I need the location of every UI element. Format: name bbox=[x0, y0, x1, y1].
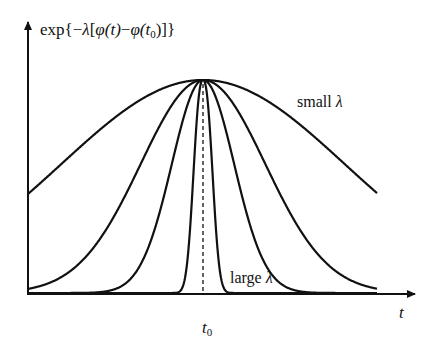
x-axis-label: t bbox=[399, 304, 404, 321]
t0-tick-label: t0 bbox=[202, 319, 212, 338]
small-lambda-annotation: small λ bbox=[297, 94, 343, 110]
y-axis-label: exp{−λ[φ(t)−φ(t0)]} bbox=[40, 21, 175, 40]
curve-family-diagram bbox=[0, 0, 433, 340]
large-lambda-annotation: large λ bbox=[230, 270, 273, 286]
